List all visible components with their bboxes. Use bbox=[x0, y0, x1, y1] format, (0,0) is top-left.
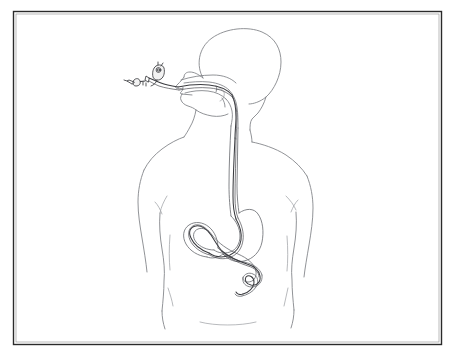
medical-illustration-svg bbox=[0, 0, 455, 356]
illustration-canvas bbox=[0, 0, 455, 356]
canvas-background bbox=[0, 0, 455, 356]
